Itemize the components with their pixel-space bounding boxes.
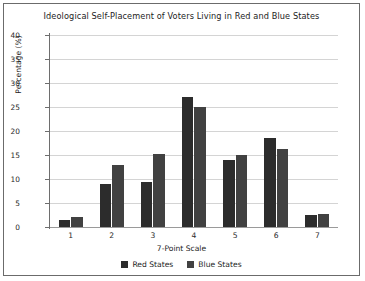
plot-area <box>50 35 338 227</box>
y-tick-mark <box>45 83 49 84</box>
y-tick-mark <box>45 227 49 228</box>
bar-red-states-1 <box>59 220 71 227</box>
y-tick-label: 40 <box>0 31 20 40</box>
x-tick-label: 4 <box>174 231 214 240</box>
y-tick-label: 10 <box>0 175 20 184</box>
bar-group <box>215 35 256 227</box>
bar-blue-states-5 <box>236 155 248 227</box>
y-tick-mark <box>45 59 49 60</box>
bar-red-states-5 <box>223 160 235 227</box>
chart-title: Ideological Self-Placement of Voters Liv… <box>4 11 359 21</box>
bar-blue-states-1 <box>71 217 83 227</box>
y-tick-mark <box>45 179 49 180</box>
y-tick-mark <box>45 203 49 204</box>
bar-blue-states-2 <box>112 165 124 227</box>
y-tick-mark <box>45 107 49 108</box>
y-tick-label: 35 <box>0 55 20 64</box>
bar-blue-states-6 <box>277 149 289 227</box>
bar-red-states-7 <box>305 215 317 227</box>
bar-red-states-2 <box>100 184 112 227</box>
bar-blue-states-3 <box>153 154 165 227</box>
bar-group <box>256 35 297 227</box>
bar-blue-states-7 <box>318 214 330 227</box>
y-tick-label: 5 <box>0 199 20 208</box>
y-tick-label: 30 <box>0 79 20 88</box>
y-tick-label: 15 <box>0 151 20 160</box>
bar-group <box>132 35 173 227</box>
gridline <box>50 227 338 228</box>
legend-item-blue-states: Blue States <box>187 260 241 269</box>
y-tick-label: 0 <box>0 223 20 232</box>
chart-frame: Ideological Self-Placement of Voters Liv… <box>3 3 360 276</box>
x-tick-label: 1 <box>51 231 91 240</box>
chart-legend: Red StatesBlue States <box>4 260 359 269</box>
y-tick-label: 25 <box>0 103 20 112</box>
legend-item-red-states: Red States <box>121 260 173 269</box>
bar-group <box>297 35 338 227</box>
legend-label: Blue States <box>198 260 241 269</box>
legend-swatch-icon <box>121 261 128 268</box>
bar-group <box>173 35 214 227</box>
legend-label: Red States <box>132 260 173 269</box>
legend-swatch-icon <box>187 261 194 268</box>
x-tick-label: 5 <box>215 231 255 240</box>
bar-red-states-6 <box>264 138 276 227</box>
x-tick-label: 2 <box>92 231 132 240</box>
y-tick-label: 20 <box>0 127 20 136</box>
x-tick-label: 3 <box>133 231 173 240</box>
x-axis-title: 7-Point Scale <box>4 244 359 253</box>
y-tick-mark <box>45 131 49 132</box>
bar-red-states-4 <box>182 97 194 227</box>
y-tick-mark <box>45 35 49 36</box>
bar-blue-states-4 <box>194 107 206 227</box>
y-tick-mark <box>45 155 49 156</box>
bar-red-states-3 <box>141 182 153 227</box>
bar-group <box>50 35 91 227</box>
x-tick-label: 6 <box>256 231 296 240</box>
x-tick-label: 7 <box>297 231 337 240</box>
bar-group <box>91 35 132 227</box>
